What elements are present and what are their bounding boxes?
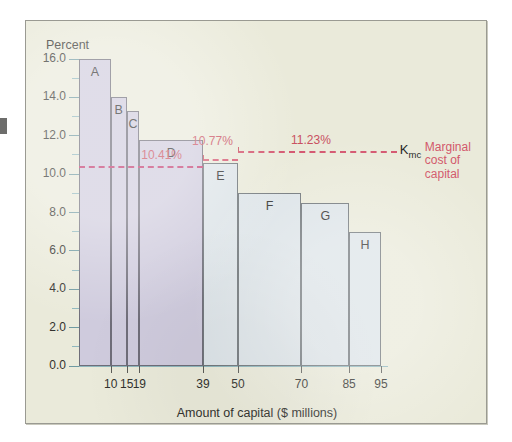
bar-c (127, 111, 140, 366)
x-tick-label: 15 (120, 377, 133, 391)
x-tick (349, 366, 350, 373)
y-tick-major (69, 250, 79, 251)
figure-panel: Percent Amount of capital ($ millions) 0… (25, 20, 487, 424)
x-tick-label: 85 (342, 377, 355, 391)
x-tick (203, 366, 204, 373)
bar-letter-c: C (129, 117, 138, 131)
bar-d (139, 140, 203, 366)
y-tick-major (69, 97, 79, 98)
x-tick-label: 39 (196, 377, 209, 391)
x-axis-title: Amount of capital ($ millions) (26, 406, 488, 420)
marginal-cost-legend: Marginalcost ofcapital (425, 141, 471, 182)
y-tick-major (69, 327, 79, 328)
bar-g (301, 203, 349, 366)
y-tick-label: 6.0 (26, 243, 66, 257)
x-tick-label: 10 (104, 377, 117, 391)
bar-letter-g: G (320, 209, 330, 223)
y-tick-minor (72, 193, 79, 194)
y-tick-major (69, 135, 79, 136)
legend-line-3: capital (425, 168, 471, 182)
x-tick (127, 366, 128, 373)
y-tick-label: 4.0 (26, 281, 66, 295)
chart-screenshot: Percent Amount of capital ($ millions) 0… (0, 0, 512, 442)
bar-h (349, 232, 381, 366)
mc-line-start-tick-3 (238, 147, 239, 152)
mc-line-3 (238, 151, 397, 153)
y-tick-minor (72, 116, 79, 117)
bar-e (203, 163, 238, 366)
x-tick-label: 50 (231, 377, 244, 391)
mc-label-2: 10.77% (192, 134, 233, 148)
bar-f (238, 193, 302, 366)
y-tick-minor (72, 308, 79, 309)
bar-letter-h: H (361, 238, 370, 252)
scan-edge-mark (0, 118, 7, 134)
bar-letter-f: F (266, 199, 274, 213)
x-tick (381, 366, 382, 373)
x-tick-label: 19 (133, 377, 146, 391)
y-axis-title: Percent (46, 38, 89, 52)
legend-line-1: Marginal (425, 141, 471, 155)
y-tick-minor (72, 78, 79, 79)
x-tick (111, 366, 112, 373)
y-tick-label: 12.0 (26, 128, 66, 142)
y-tick-label: 10.0 (26, 166, 66, 180)
y-tick-label: 16.0 (26, 51, 66, 65)
mc-line-start-tick-2 (203, 155, 204, 160)
y-tick-label: 8.0 (26, 205, 66, 219)
bar-letter-b: B (115, 103, 123, 117)
y-tick-major (69, 289, 79, 290)
x-tick-label: 95 (374, 377, 387, 391)
y-tick-minor (72, 270, 79, 271)
y-tick-label: 2.0 (26, 320, 66, 334)
legend-line-2: cost of (425, 154, 471, 168)
mc-label-1: 10.41% (141, 148, 182, 162)
x-tick (301, 366, 302, 373)
y-tick-minor (72, 231, 79, 232)
bar-letter-a: A (91, 65, 99, 79)
y-tick-label: 0.0 (26, 358, 66, 372)
bar-a (79, 59, 111, 366)
mc-label-3: 11.23% (291, 133, 331, 147)
y-tick-major (69, 366, 79, 367)
y-tick-major (69, 174, 79, 175)
x-tick (238, 366, 239, 373)
kmc-subscript: mc (408, 148, 421, 159)
bar-b (111, 97, 127, 366)
y-tick-minor (72, 346, 79, 347)
plot-area: Percent Amount of capital ($ millions) 0… (26, 21, 486, 423)
mc-line-1 (79, 166, 203, 168)
y-tick-major (69, 212, 79, 213)
mc-line-2 (203, 159, 238, 161)
y-tick-minor (72, 154, 79, 155)
bar-letter-e: E (216, 169, 224, 183)
x-axis-line (79, 366, 388, 367)
y-tick-label: 14.0 (26, 89, 66, 103)
x-tick-label: 70 (295, 377, 308, 391)
y-tick-major (69, 59, 79, 60)
x-tick (139, 366, 140, 373)
kmc-symbol-label: Kmc (400, 142, 421, 160)
